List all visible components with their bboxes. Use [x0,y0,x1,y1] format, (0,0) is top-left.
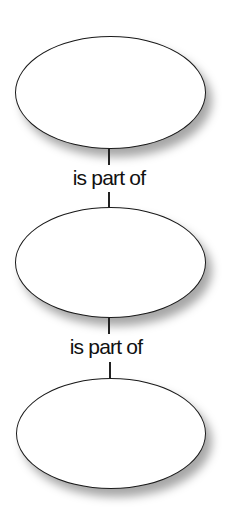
edge-label-1: is part of [73,166,146,190]
bottom-ellipse-node [16,378,206,489]
middle-ellipse-node [15,207,206,318]
connector-line-2b [109,362,111,378]
top-ellipse-node [15,36,206,149]
connector-line-1a [108,149,110,165]
connector-line-1b [108,192,110,207]
edge-label-2: is part of [70,335,143,359]
connector-line-2a [108,318,110,334]
